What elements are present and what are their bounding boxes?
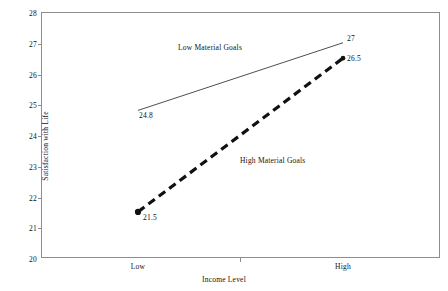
chart-figure: 282726252423222120 Satisfaction with Lif… <box>0 0 448 291</box>
series-line-high-material-goals <box>138 58 343 212</box>
series-label-high-material-goals: High Material Goals <box>240 156 305 165</box>
series-marker-high-goals-high-income <box>341 56 346 61</box>
series-line-low-material-goals <box>138 43 343 111</box>
point-label-high-goals-low-income: 21.5 <box>143 213 157 222</box>
point-label-low-goals-high-income: 27 <box>347 34 355 43</box>
point-label-high-goals-high-income: 26.5 <box>347 54 361 63</box>
point-label-low-goals-low-income: 24.8 <box>139 111 153 120</box>
series-label-low-material-goals: Low Material Goals <box>178 43 242 52</box>
series-marker-high-goals-low-income <box>135 209 141 215</box>
